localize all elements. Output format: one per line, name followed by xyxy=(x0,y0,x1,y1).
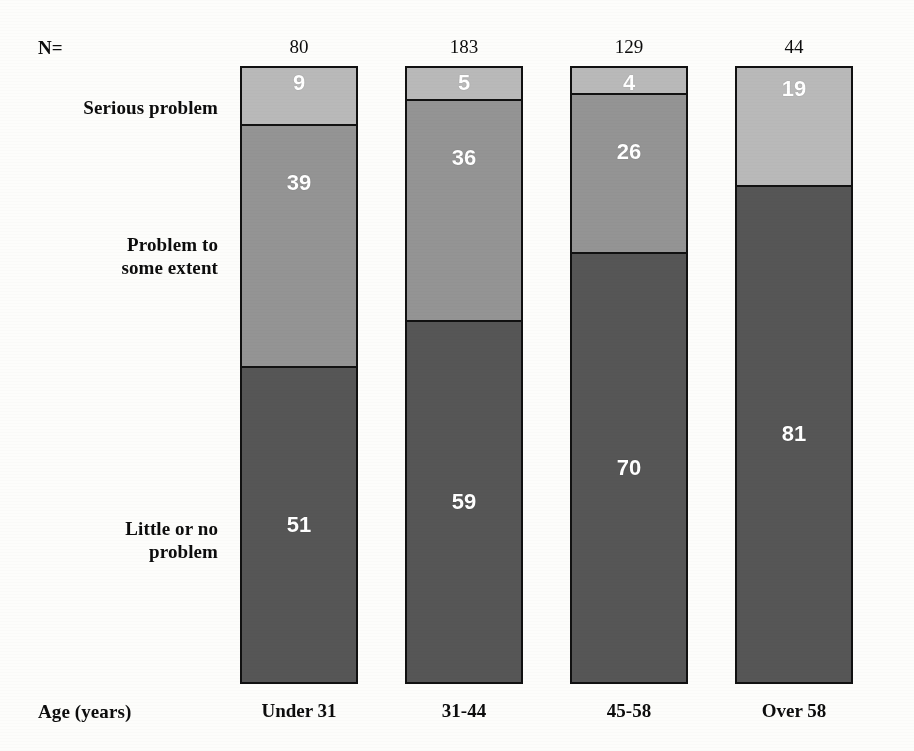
n-value: 80 xyxy=(240,36,358,58)
bar-segment-some[interactable]: 36 xyxy=(407,99,521,320)
n-value: 44 xyxy=(735,36,853,58)
bar-segment-little[interactable]: 51 xyxy=(242,366,356,682)
segment-value: 9 xyxy=(293,72,305,94)
stacked-bar[interactable]: 93951 xyxy=(240,66,358,684)
stacked-bar[interactable]: 53659 xyxy=(405,66,523,684)
n-value: 129 xyxy=(570,36,688,58)
x-axis-category-label: 45-58 xyxy=(570,700,688,722)
bar-segment-serious[interactable]: 5 xyxy=(407,68,521,99)
bar-group-under-31: 8093951Under 31 xyxy=(240,0,358,751)
stacked-bar[interactable]: 42670 xyxy=(570,66,688,684)
bar-segment-little[interactable]: 81 xyxy=(737,185,851,682)
x-axis-category-label: 31-44 xyxy=(405,700,523,722)
bar-segment-serious[interactable]: 9 xyxy=(242,68,356,124)
segment-value: 4 xyxy=(623,72,635,93)
bar-segment-little[interactable]: 59 xyxy=(407,320,521,682)
bar-group-31-44: 1835365931-44 xyxy=(405,0,523,751)
bar-segment-serious[interactable]: 4 xyxy=(572,68,686,93)
bar-segment-little[interactable]: 70 xyxy=(572,252,686,682)
segment-value: 81 xyxy=(782,423,806,445)
bar-group-over-58: 441981Over 58 xyxy=(735,0,853,751)
segment-value: 39 xyxy=(287,172,311,194)
segment-value: 36 xyxy=(452,147,476,169)
bar-segment-some[interactable]: 26 xyxy=(572,93,686,253)
stacked-bar[interactable]: 1981 xyxy=(735,66,853,684)
segment-value: 59 xyxy=(452,491,476,513)
segment-value: 19 xyxy=(782,78,806,100)
segment-value: 5 xyxy=(458,72,470,94)
stacked-bar-chart: N= Serious problem Problem to some exten… xyxy=(0,0,914,751)
bar-segment-serious[interactable]: 19 xyxy=(737,68,851,185)
bar-segment-some[interactable]: 39 xyxy=(242,124,356,366)
n-value: 183 xyxy=(405,36,523,58)
bar-group-45-58: 1294267045-58 xyxy=(570,0,688,751)
x-axis-category-label: Under 31 xyxy=(240,700,358,722)
segment-value: 51 xyxy=(287,514,311,536)
plot-area: 8093951Under 311835365931-441294267045-5… xyxy=(0,0,914,751)
segment-value: 26 xyxy=(617,141,641,163)
x-axis-category-label: Over 58 xyxy=(735,700,853,722)
segment-value: 70 xyxy=(617,457,641,479)
